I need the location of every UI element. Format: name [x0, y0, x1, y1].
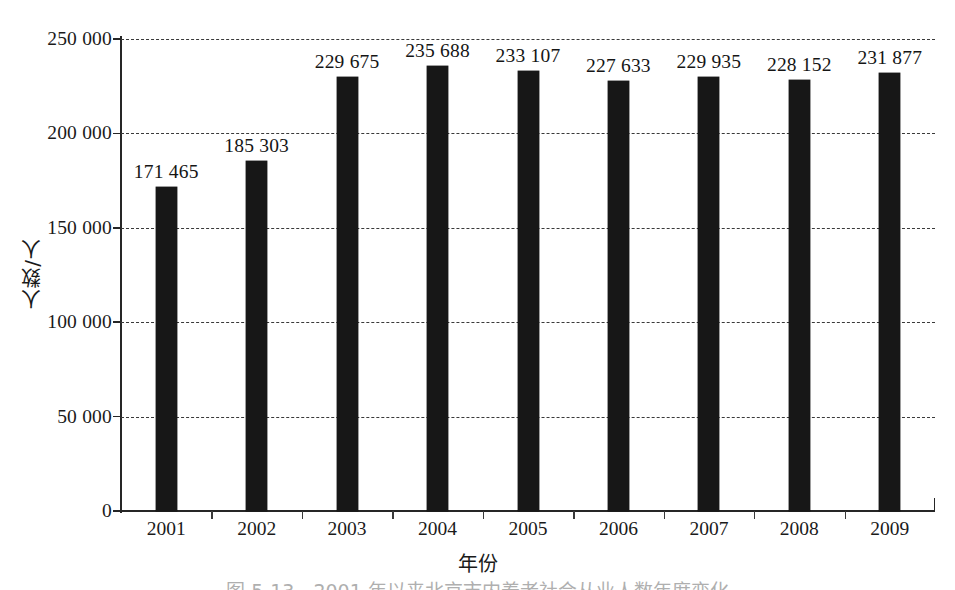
x-axis-tick-label: 2003: [328, 518, 367, 540]
y-axis-tick: [113, 38, 121, 40]
y-axis-tick: [113, 133, 121, 135]
x-axis-tick-label: 2006: [599, 518, 638, 540]
bar[interactable]: [156, 187, 177, 511]
bar-chart-figure: 人数/人 050 000100 000150 000200 000250 000…: [0, 0, 955, 590]
bar[interactable]: [518, 71, 539, 511]
x-axis-tick-label: 2009: [870, 518, 909, 540]
x-axis-tick-label: 2005: [509, 518, 548, 540]
y-axis-tick-label: 150 000: [47, 217, 112, 239]
x-axis-tick-label: 2001: [147, 518, 186, 540]
y-axis-tick-label: 250 000: [47, 28, 112, 50]
x-axis-title: 年份: [0, 548, 955, 577]
y-axis-tick: [113, 227, 121, 229]
bar-value-label: 235 688: [405, 40, 470, 62]
bar-value-label: 228 152: [767, 54, 832, 76]
y-axis-tick-label: 100 000: [47, 311, 112, 333]
x-axis-tick-label: 2002: [237, 518, 276, 540]
figure-caption: 图 5-13 2001 年以来北京市内养老社会从业人数年度变化: [0, 576, 955, 590]
x-axis-tick: [392, 511, 393, 519]
bar-value-label: 185 303: [224, 135, 289, 157]
bar[interactable]: [246, 161, 267, 511]
y-axis-tick-label: 0: [102, 500, 112, 522]
bar[interactable]: [789, 80, 810, 511]
bar[interactable]: [427, 66, 448, 511]
x-axis-tick: [664, 511, 665, 519]
y-axis-title: 人数/人: [17, 238, 47, 309]
bar-value-label: 233 107: [496, 45, 561, 67]
y-axis-tick: [113, 321, 121, 323]
y-axis-tick-label: 200 000: [47, 122, 112, 144]
x-axis-tick: [573, 511, 574, 519]
bar[interactable]: [879, 73, 900, 511]
x-axis-tick: [845, 511, 846, 519]
x-axis-tick-label: 2008: [780, 518, 819, 540]
bar[interactable]: [337, 77, 358, 511]
bar[interactable]: [698, 77, 719, 511]
bar-value-label: 229 675: [315, 51, 380, 73]
x-axis-tick: [211, 511, 212, 519]
x-axis-tick-label: 2004: [418, 518, 457, 540]
bar-value-label: 229 935: [676, 51, 741, 73]
x-axis-tick-label: 2007: [689, 518, 728, 540]
plot-area: 050 000100 000150 000200 000250 000171 4…: [121, 39, 935, 511]
bar-value-label: 171 465: [134, 161, 199, 183]
y-axis-tick: [113, 510, 121, 512]
gridline: [121, 39, 935, 40]
bar-value-label: 227 633: [586, 55, 651, 77]
x-axis-tick: [754, 511, 755, 519]
x-axis-tick: [483, 511, 484, 519]
y-axis-tick-label: 50 000: [57, 406, 112, 428]
x-axis-tick: [302, 511, 303, 519]
bar[interactable]: [608, 81, 629, 511]
bar-value-label: 231 877: [857, 47, 922, 69]
y-axis-tick: [113, 416, 121, 418]
